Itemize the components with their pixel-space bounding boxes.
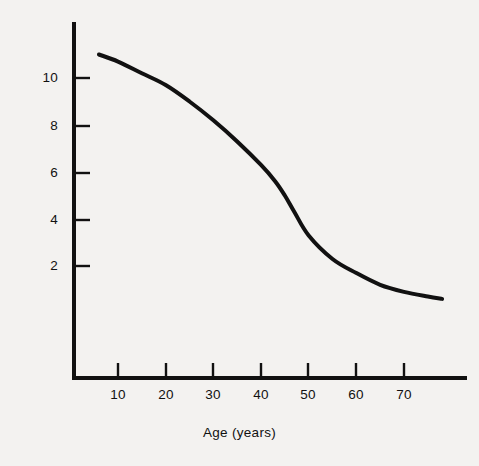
x-axis-ticks	[118, 363, 404, 377]
x-tick-label-70: 70	[384, 388, 424, 402]
x-tick-label-10: 10	[98, 388, 138, 402]
y-tick-label-10: 10	[24, 71, 58, 85]
x-axis-title: Age (years)	[0, 425, 479, 440]
y-tick-label-2: 2	[24, 259, 58, 273]
y-tick-label-8: 8	[24, 119, 58, 133]
data-series-line	[99, 55, 442, 299]
x-tick-label-30: 30	[193, 388, 233, 402]
x-tick-label-60: 60	[336, 388, 376, 402]
y-tick-label-4: 4	[24, 213, 58, 227]
y-axis-ticks	[76, 78, 90, 266]
y-tick-label-6: 6	[24, 166, 58, 180]
x-tick-label-50: 50	[288, 388, 328, 402]
x-tick-label-20: 20	[146, 388, 186, 402]
axis-lines	[74, 22, 467, 378]
chart-figure: 10 8 6 4 2 10 20 30 40 50 60 70 Age (yea…	[0, 0, 479, 466]
x-tick-label-40: 40	[241, 388, 281, 402]
